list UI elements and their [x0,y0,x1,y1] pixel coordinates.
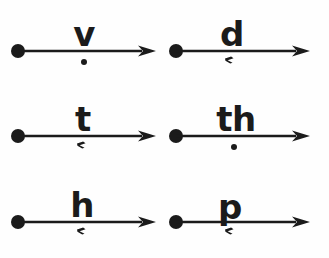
arrow-diagram-h: h [6,180,170,258]
comma-below-mark [225,55,236,64]
comma-below-mark [77,140,88,149]
comma-below-icon [225,55,236,64]
arrow-label-h: h [70,188,94,222]
arrow-label-d: d [220,17,244,51]
comma-below-mark [225,226,236,235]
dot-below-mark [231,144,237,150]
dot-below-icon [231,144,237,150]
arrow-graphic [164,8,328,94]
arrow-label-v: v [73,17,95,51]
arrow-diagram-v: v [6,8,170,94]
arrow-diagram-d: d [164,8,328,94]
arrow-label-t: t [75,102,91,136]
comma-below-icon [225,226,236,235]
arrow-label-th: th [216,102,255,136]
dot-below-icon [81,59,87,65]
arrow-diagram-th: th [164,94,328,180]
arrow-diagram-p: p [164,180,328,258]
arrow-diagram-t: t [6,94,170,180]
dot-below-mark [81,59,87,65]
comma-below-mark [77,226,88,235]
comma-below-icon [77,140,88,149]
comma-below-icon [77,226,88,235]
figure-canvas: vdtthhp [0,0,329,258]
arrow-graphic [164,180,328,258]
arrow-label-p: p [218,190,242,224]
